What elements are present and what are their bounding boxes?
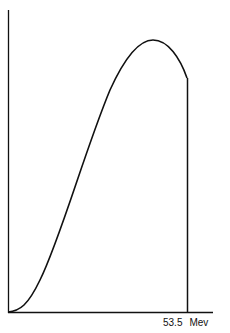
x-unit: Mev	[189, 317, 208, 328]
x-end-label: 53.5Mev	[163, 317, 208, 328]
spectrum-curve	[8, 40, 187, 312]
spectrum-chart	[0, 0, 230, 333]
x-end-value: 53.5	[163, 317, 182, 328]
